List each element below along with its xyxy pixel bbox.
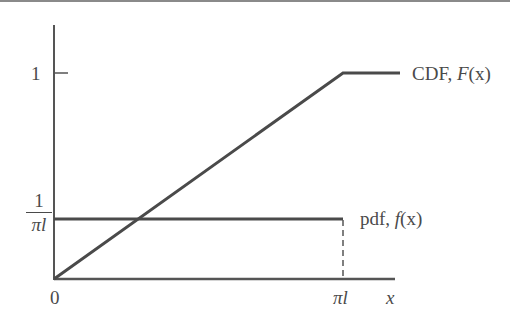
y-tick-label-frac: 1 πl bbox=[26, 191, 52, 234]
x-tick-label-zero: 0 bbox=[50, 288, 60, 307]
pdf-label-arg: (x) bbox=[400, 208, 422, 229]
x-tick-label-pil: πl bbox=[333, 288, 348, 307]
pdf-label-prefix: pdf, bbox=[360, 208, 395, 229]
y-tick-frac-denominator: πl bbox=[26, 213, 52, 234]
cdf-label-func: F bbox=[457, 63, 469, 84]
cdf-line bbox=[54, 73, 400, 279]
cdf-label-prefix: CDF, bbox=[412, 63, 457, 84]
y-tick-label-one: 1 bbox=[31, 64, 41, 83]
cdf-label-arg: (x) bbox=[469, 63, 491, 84]
x-axis-label: x bbox=[386, 288, 394, 307]
cdf-legend-label: CDF, F(x) bbox=[412, 64, 491, 83]
pdf-legend-label: pdf, f(x) bbox=[360, 209, 422, 228]
y-tick-frac-numerator: 1 bbox=[26, 191, 52, 213]
chart-canvas bbox=[0, 0, 526, 319]
